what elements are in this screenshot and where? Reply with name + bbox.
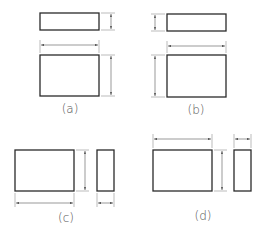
front-view-rect: [167, 55, 226, 97]
top-view-rect: [40, 13, 99, 30]
front-view-rect: [40, 55, 99, 96]
top-view-rect: [167, 14, 226, 31]
panel-c: (c): [15, 150, 114, 225]
panel-d: (d): [153, 134, 251, 223]
panel-label: (d): [195, 209, 212, 223]
panel-label: (b): [188, 103, 205, 117]
side-view-rect: [97, 150, 114, 191]
panel-label: (c): [58, 211, 74, 225]
panel-b: (b): [151, 14, 226, 117]
side-view-rect: [234, 150, 251, 191]
front-view-rect: [153, 150, 212, 191]
panel-a: (a): [40, 13, 115, 116]
panel-label: (a): [62, 102, 79, 116]
front-view-rect: [15, 150, 74, 191]
dimensioning-diagram: (a) (b) (c): [0, 0, 265, 236]
